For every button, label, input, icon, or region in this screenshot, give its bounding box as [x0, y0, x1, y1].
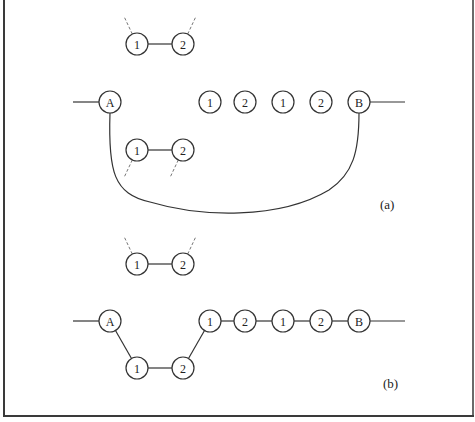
node-a-chain-1: 1: [199, 91, 221, 113]
node-a-chain-4: 2: [310, 91, 332, 113]
node-label: 1: [207, 96, 213, 110]
node-b-upper-pair-right: 2: [172, 253, 194, 275]
node-b-chain-1: 1: [199, 310, 221, 332]
dangling-edge-a-5: [124, 17, 132, 34]
node-label: B: [355, 96, 363, 110]
node-a-chain-2: 2: [234, 91, 256, 113]
node-label: 2: [242, 315, 248, 329]
node-a-chain-3: 1: [272, 91, 294, 113]
curved-edge-a-A-to-B: [110, 113, 359, 213]
node-label: 2: [180, 144, 186, 158]
dangling-edge-a-6: [188, 17, 196, 34]
dangling-edge-a-8: [170, 160, 178, 177]
node-label: A: [106, 315, 115, 329]
node-b-chain-2: 2: [234, 310, 256, 332]
node-a-lower-pair-right: 2: [172, 139, 194, 161]
node-a-endpoint-B: B: [348, 91, 370, 113]
node-label: 2: [180, 258, 186, 272]
node-b-endpoint-A: A: [99, 310, 121, 332]
node-b-lower-pair-left: 1: [126, 357, 148, 379]
node-a-endpoint-A: A: [99, 91, 121, 113]
dangling-edge-b-10: [124, 237, 132, 254]
node-label: 2: [318, 96, 324, 110]
node-label: 1: [280, 315, 286, 329]
node-b-chain-3: 1: [272, 310, 294, 332]
node-a-upper-pair-right: 2: [172, 33, 194, 55]
node-b-upper-pair-left: 1: [126, 253, 148, 275]
node-label: 1: [134, 38, 140, 52]
node-label: 1: [134, 258, 140, 272]
node-b-chain-4: 2: [310, 310, 332, 332]
node-label: 1: [280, 96, 286, 110]
node-label: 2: [180, 38, 186, 52]
node-b-lower-pair-right: 2: [172, 357, 194, 379]
node-label: 1: [134, 362, 140, 376]
node-label: 2: [180, 362, 186, 376]
diagram-canvas: 12A1212B1212A1212B12 (a) (b): [0, 0, 475, 422]
nodes-layer: 12A1212B1212A1212B12: [99, 33, 370, 379]
edge-b-4: [188, 331, 204, 359]
labels-layer: (a) (b): [380, 197, 398, 391]
node-a-lower-pair-left: 1: [126, 139, 148, 161]
node-label: 2: [242, 96, 248, 110]
node-a-upper-pair-left: 1: [126, 33, 148, 55]
panel-label-b: (b): [383, 376, 398, 391]
node-b-endpoint-B: B: [348, 310, 370, 332]
node-label: 1: [207, 315, 213, 329]
node-label: 1: [134, 144, 140, 158]
panel-label-a: (a): [380, 197, 394, 212]
dangling-edge-a-7: [124, 160, 132, 177]
dangling-edge-b-11: [188, 237, 196, 254]
node-label: A: [106, 96, 115, 110]
edge-b-2: [115, 331, 131, 359]
node-label: 2: [318, 315, 324, 329]
node-label: B: [355, 315, 363, 329]
